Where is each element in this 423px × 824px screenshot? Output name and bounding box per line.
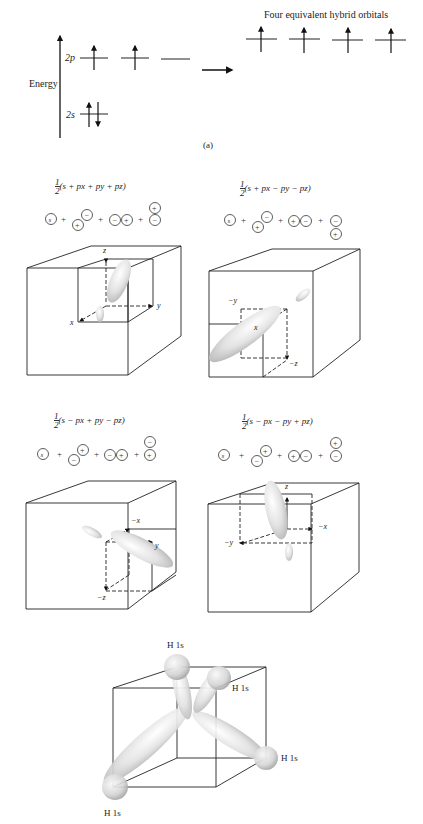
svg-text:−: −	[334, 452, 339, 461]
svg-text:−: −	[153, 216, 158, 225]
h1s-label-upper-right: H 1s	[232, 683, 249, 693]
formula-1: 12(s + px + py + pz)	[55, 178, 126, 195]
h1s-label-bottom: H 1s	[104, 808, 121, 818]
hydrogen-1s-sphere	[102, 774, 128, 800]
combination-2: s + + − + + − + − +	[225, 212, 342, 240]
axis-label-z: z	[285, 482, 288, 491]
svg-text:+: +	[75, 221, 80, 230]
svg-text:+: +	[241, 215, 246, 225]
hybrid-title: Four equivalent hybrid orbitals	[264, 9, 388, 20]
svg-text:+: +	[57, 449, 62, 459]
svg-text:+: +	[239, 450, 244, 460]
svg-text:+: +	[124, 216, 129, 225]
axis-label-neg-x: −x	[131, 516, 140, 525]
hybrid-lobe-small	[294, 286, 313, 304]
svg-text:−: −	[255, 457, 260, 466]
combination-1: s + + − + − + + + −	[46, 203, 161, 231]
h1s-label-top: H 1s	[167, 640, 184, 650]
svg-text:+: +	[80, 446, 85, 455]
axis-label-x: x	[70, 318, 74, 327]
svg-text:+: +	[94, 449, 99, 459]
cube-2	[209, 249, 360, 377]
svg-text:−: −	[334, 217, 339, 226]
svg-text:−: −	[304, 452, 309, 461]
hydrogen-1s-sphere	[254, 746, 278, 770]
svg-text:+: +	[278, 215, 283, 225]
combination-4: s + − + + + − + + −	[219, 438, 342, 467]
panel-caption: (a)	[203, 140, 213, 150]
svg-text:+: +	[98, 214, 103, 224]
axis-label-y: y	[157, 301, 161, 310]
svg-text:+: +	[147, 451, 152, 460]
cube-1	[27, 246, 181, 375]
svg-text:+: +	[138, 214, 143, 224]
svg-text:+: +	[134, 449, 139, 459]
svg-text:+: +	[263, 447, 268, 456]
svg-text:+: +	[119, 451, 124, 460]
formula-4: 12(s − px − py + pz)	[242, 413, 313, 430]
svg-text:−: −	[265, 213, 270, 222]
svg-text:+: +	[318, 215, 323, 225]
hydrogen-1s-sphere	[207, 666, 231, 690]
svg-text:−: −	[304, 217, 309, 226]
svg-text:s: s	[228, 217, 231, 225]
combination-3: s + − + + − + + − +	[38, 437, 156, 466]
svg-text:−: −	[148, 438, 153, 447]
formula-3: 12(s − px + py − pz)	[54, 412, 125, 429]
axis-label-z: z	[103, 246, 106, 255]
svg-text:−: −	[108, 451, 113, 460]
svg-text:+: +	[333, 230, 338, 239]
axis-label-neg-y: −y	[228, 296, 237, 305]
hybrid-levels	[246, 27, 406, 53]
level-2p-label: 2p	[65, 52, 75, 63]
svg-text:s: s	[49, 216, 52, 224]
svg-text:+: +	[318, 450, 323, 460]
svg-text:−: −	[72, 456, 77, 465]
svg-text:+: +	[255, 223, 260, 232]
axis-label-neg-y: −y	[224, 538, 233, 547]
svg-text:s: s	[222, 452, 225, 460]
svg-text:+: +	[291, 217, 296, 226]
energy-axis-label: Energy	[29, 78, 58, 89]
svg-text:s: s	[41, 451, 44, 459]
axis-label-neg-x: −x	[318, 522, 327, 531]
svg-text:+: +	[291, 452, 296, 461]
hybrid-lobe-large	[102, 256, 136, 305]
svg-text:+: +	[277, 450, 282, 460]
svg-text:+: +	[61, 214, 66, 224]
hybrid-lobe-small	[285, 543, 293, 561]
hydrogen-1s-sphere	[164, 654, 190, 680]
svg-text:+: +	[152, 204, 157, 213]
svg-text:−: −	[85, 211, 90, 220]
svg-text:−: −	[113, 216, 118, 225]
formula-2: 12(s + px − py − pz)	[240, 180, 311, 197]
svg-text:+: +	[333, 439, 338, 448]
energy-diagram	[60, 27, 406, 138]
axis-label-neg-z: −z	[289, 359, 298, 368]
hybrid-lobe-large	[106, 524, 177, 575]
axis-label-x: x	[254, 323, 258, 332]
h1s-label-right: H 1s	[281, 753, 298, 763]
hybrid-lobe-small	[80, 523, 103, 540]
axis-label-y: y	[155, 541, 159, 550]
axis-label-neg-z: −z	[97, 593, 106, 602]
hybrid-lobe-small	[96, 306, 104, 322]
methane-cube	[96, 654, 278, 800]
level-2s-label: 2s	[66, 109, 75, 120]
